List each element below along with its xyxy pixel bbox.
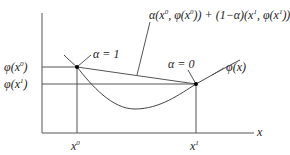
phi-curve bbox=[64, 55, 240, 109]
phi-x0-tick-label: φ(x0) bbox=[4, 60, 27, 74]
point-x1 bbox=[194, 82, 198, 86]
chord-label: α(x0, φ(x0)) + (1−α)(x1, φ(x1)) bbox=[149, 8, 290, 22]
curve-label: φ(x) bbox=[226, 60, 246, 74]
x0-tick-label: x0 bbox=[70, 139, 80, 153]
convexity-diagram: x x0 x1 φ(x0) φ(x1) α = 1 α = 0 φ(x) α(x… bbox=[0, 0, 290, 155]
alpha-zero-label: α = 0 bbox=[168, 57, 194, 71]
phi-x1-tick-label: φ(x1) bbox=[4, 77, 27, 91]
alpha-one-label: α = 1 bbox=[93, 47, 119, 61]
chord-label-leader bbox=[137, 22, 150, 75]
point-x0 bbox=[75, 65, 79, 69]
x-axis-label: x bbox=[256, 125, 263, 139]
alpha-one-leader bbox=[77, 55, 91, 67]
alpha-zero-leader bbox=[188, 70, 196, 84]
curve-label-leader bbox=[212, 68, 224, 75]
x1-tick-label: x1 bbox=[189, 139, 199, 153]
